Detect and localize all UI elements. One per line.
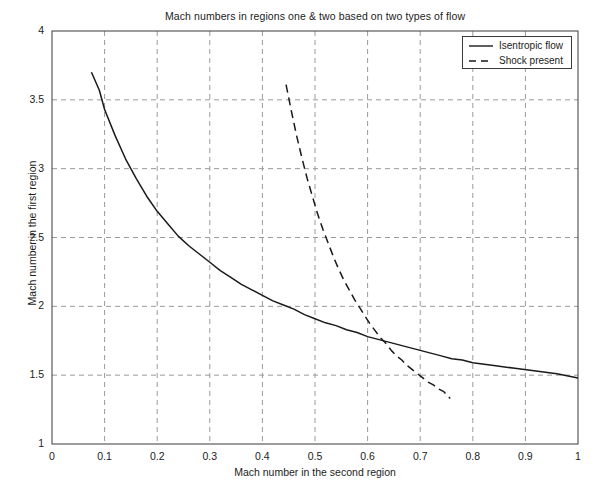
x-tick-label: 0.2 <box>137 450 177 462</box>
legend-sample-solid-line <box>468 41 494 51</box>
x-axis-label: Mach number in the second region <box>52 466 578 478</box>
y-tick-label: 1.5 <box>10 368 44 380</box>
data-series-layer <box>91 72 578 398</box>
x-tick-label: 0.8 <box>453 450 493 462</box>
y-tick-label: 4 <box>10 24 44 36</box>
y-tick-label: 1 <box>10 437 44 449</box>
x-tick-label: 0.6 <box>348 450 388 462</box>
x-tick-label: 0.4 <box>242 450 282 462</box>
x-tick-label: 1 <box>558 450 594 462</box>
y-tick-label: 3.5 <box>10 93 44 105</box>
chart-legend: Isentropic flow Shock present <box>462 36 572 69</box>
series-line-isentropic-flow <box>91 72 578 378</box>
y-axis-label: Mach number in the first region <box>26 123 38 343</box>
x-tick-label: 0.7 <box>400 450 440 462</box>
x-tick-label: 0.5 <box>295 450 335 462</box>
x-tick-label: 0.1 <box>85 450 125 462</box>
grid-lines <box>52 31 578 444</box>
plot-canvas <box>0 0 594 489</box>
chart-figure: Mach numbers in regions one & two based … <box>0 0 594 489</box>
legend-sample-dashed-line <box>468 56 494 66</box>
x-tick-label: 0.9 <box>505 450 545 462</box>
x-tick-label: 0 <box>32 450 72 462</box>
legend-label-shock-present: Shock present <box>499 55 563 66</box>
x-tick-label: 0.3 <box>190 450 230 462</box>
legend-item-isentropic-flow: Isentropic flow <box>468 38 563 53</box>
legend-label-isentropic-flow: Isentropic flow <box>499 40 563 51</box>
legend-item-shock-present: Shock present <box>468 53 563 68</box>
